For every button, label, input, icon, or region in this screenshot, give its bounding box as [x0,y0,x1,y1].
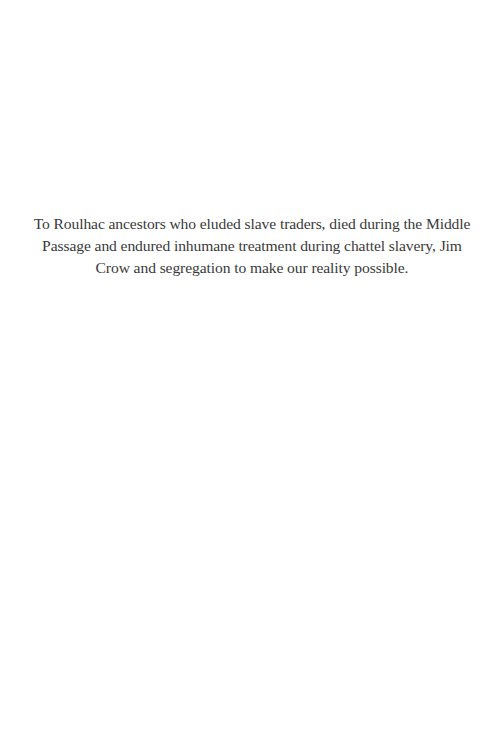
dedication-text: To Roulhac ancestors who eluded slave tr… [20,213,484,279]
dedication-line-2: Passage and endured inhumane treatment d… [20,235,484,257]
dedication-line-1: To Roulhac ancestors who eluded slave tr… [20,213,484,235]
dedication-line-3: Crow and segregation to make our reality… [20,257,484,279]
book-page: To Roulhac ancestors who eluded slave tr… [0,0,504,744]
